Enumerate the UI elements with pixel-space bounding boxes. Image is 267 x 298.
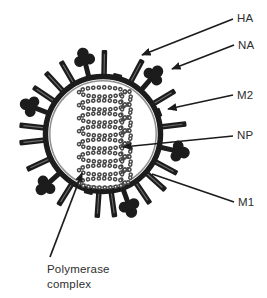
callout-line-ha [142, 19, 233, 55]
label-polymerase-line2: complex [47, 278, 91, 290]
label-m2: M2 [237, 89, 253, 101]
label-ha: HA [237, 12, 254, 24]
label-polymerase-line1: Polymerase [47, 263, 110, 275]
virus-diagram-canvas: HA NA M2 NP M1 Polymerase complex [0, 0, 267, 298]
label-na: NA [238, 39, 255, 51]
callout-line-m2 [168, 95, 233, 109]
label-m1: M1 [238, 196, 254, 208]
label-np: NP [237, 129, 254, 141]
callout-line-polymerase [50, 173, 82, 257]
callout-line-na [172, 45, 234, 69]
influenza-virus-diagram: HA NA M2 NP M1 Polymerase complex [0, 0, 267, 298]
